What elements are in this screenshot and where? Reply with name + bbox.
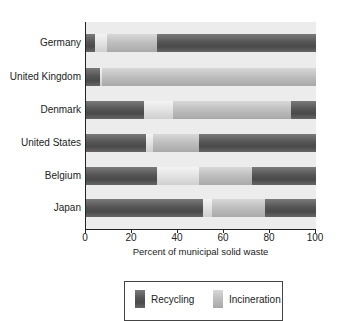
category-label: Belgium [45,170,81,181]
plot-area [85,22,316,229]
x-tick-label: 60 [217,232,228,243]
legend-item-recycling: Recycling [135,290,194,308]
bar-segment [153,134,199,152]
bar-segment [86,101,144,119]
x-tick-label: 0 [82,232,88,243]
legend-label: Incineration [229,294,281,305]
category-label: United Kingdom [10,71,81,82]
bar-segment [199,134,316,152]
bar-segment [86,199,203,217]
category-label: Japan [54,202,81,213]
x-tick-label: 100 [307,232,324,243]
category-label: United States [21,137,81,148]
bar-row [86,68,316,86]
bar-segment [86,34,95,52]
bar-row [86,34,316,52]
bar-segment [144,101,174,119]
bar-segment [95,34,107,52]
bar-segment [102,68,316,86]
bar-segment [157,34,316,52]
x-axis-label: Percent of municipal solid waste [85,246,316,257]
bar-segment [173,101,290,119]
bar-row [86,167,316,185]
legend: Recycling Incineration [124,281,283,321]
category-label: Germany [40,37,81,48]
category-label: Denmark [40,104,81,115]
legend-swatch-recycling [135,290,145,308]
bar-segment [157,167,198,185]
bar-row [86,199,316,217]
bar-segment [86,167,157,185]
legend-swatch-incineration [213,290,223,308]
legend-label: Recycling [151,294,194,305]
x-tick-label: 40 [171,232,182,243]
x-tick-label: 20 [125,232,136,243]
x-axis-line [85,229,316,230]
bar-segment [252,167,316,185]
bar-row [86,134,316,152]
bar-segment [146,134,153,152]
bar-segment [212,199,265,217]
bar-segment [107,34,158,52]
bar-segment [199,167,252,185]
x-tick-label: 80 [263,232,274,243]
bar-segment [203,199,212,217]
bar-segment [291,101,316,119]
bar-segment [265,199,316,217]
bar-segment [86,134,146,152]
bar-segment [86,68,100,86]
legend-item-incineration: Incineration [213,290,281,308]
bar-row [86,101,316,119]
